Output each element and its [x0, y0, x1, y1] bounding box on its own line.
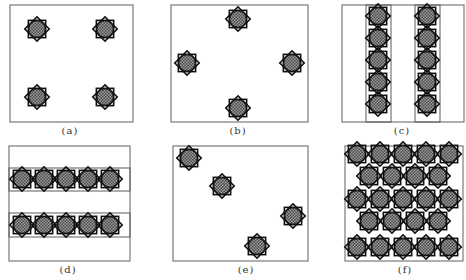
- star-particle-icon: [25, 85, 49, 109]
- star-particle-icon: [345, 235, 369, 259]
- star-particle-icon: [25, 17, 49, 41]
- figure-canvas: [0, 0, 466, 280]
- star-particle-icon: [345, 142, 369, 166]
- star-particle-icon: [368, 235, 392, 259]
- star-particle-icon: [226, 96, 250, 120]
- star-particle-icon: [366, 92, 390, 116]
- panel-b: [171, 5, 308, 122]
- star-particle-icon: [368, 187, 392, 211]
- star-particle-icon: [414, 142, 438, 166]
- panel-label-e: (e): [238, 264, 255, 275]
- star-particle-icon: [76, 167, 100, 191]
- star-particle-icon: [415, 92, 439, 116]
- star-particle-icon: [437, 235, 461, 259]
- star-particle-icon: [391, 187, 415, 211]
- star-particle-icon: [175, 51, 199, 75]
- panel-e: [173, 146, 308, 261]
- panel-label-c: (c): [394, 125, 410, 136]
- panel-frame: [342, 5, 464, 122]
- panel-c: [342, 4, 464, 122]
- star-particle-icon: [177, 146, 201, 170]
- star-particle-icon: [426, 209, 450, 233]
- star-particle-icon: [281, 204, 305, 228]
- panel-d: [9, 146, 130, 261]
- panel-label-d: (d): [59, 264, 76, 275]
- star-particle-icon: [415, 48, 439, 72]
- star-particle-icon: [366, 4, 390, 28]
- star-particle-icon: [366, 70, 390, 94]
- star-particle-icon: [32, 213, 56, 237]
- star-particle-icon: [357, 164, 381, 188]
- star-particle-icon: [226, 7, 250, 31]
- star-particle-icon: [415, 4, 439, 28]
- star-particle-icon: [93, 17, 117, 41]
- star-particle-icon: [366, 48, 390, 72]
- star-particle-icon: [391, 235, 415, 259]
- star-particle-icon: [32, 167, 56, 191]
- panel-a: [10, 5, 133, 122]
- star-particle-icon: [415, 26, 439, 50]
- star-particle-icon: [98, 213, 122, 237]
- panel-label-f: (f): [398, 264, 413, 275]
- star-particle-icon: [76, 213, 100, 237]
- star-particle-icon: [414, 235, 438, 259]
- star-particle-icon: [280, 51, 304, 75]
- star-particle-icon: [10, 167, 34, 191]
- star-particle-icon: [437, 187, 461, 211]
- star-particle-icon: [210, 174, 234, 198]
- star-particle-icon: [391, 142, 415, 166]
- star-particle-icon: [380, 164, 404, 188]
- star-particle-icon: [380, 209, 404, 233]
- star-particle-icon: [98, 167, 122, 191]
- star-particle-icon: [245, 234, 269, 258]
- star-particle-icon: [415, 70, 439, 94]
- star-particle-icon: [54, 213, 78, 237]
- star-particle-icon: [403, 164, 427, 188]
- star-particle-icon: [93, 85, 117, 109]
- star-particle-icon: [403, 209, 427, 233]
- star-particle-icon: [414, 187, 438, 211]
- panel-f: [345, 142, 463, 261]
- panel-label-a: (a): [62, 125, 79, 136]
- star-particle-icon: [357, 209, 381, 233]
- star-particle-icon: [366, 26, 390, 50]
- star-particle-icon: [54, 167, 78, 191]
- star-particle-icon: [426, 164, 450, 188]
- star-particle-icon: [437, 142, 461, 166]
- panel-frame: [9, 146, 130, 261]
- star-particle-icon: [345, 187, 369, 211]
- star-particle-icon: [368, 142, 392, 166]
- star-particle-icon: [10, 213, 34, 237]
- panel-label-b: (b): [229, 125, 246, 136]
